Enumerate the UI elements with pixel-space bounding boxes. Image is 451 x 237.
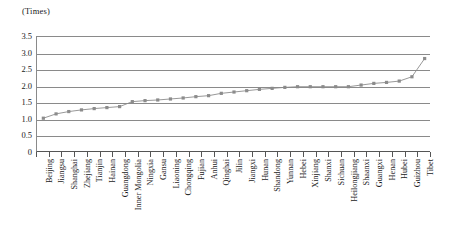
x-axis-label: Hebei — [300, 159, 308, 179]
gridline — [37, 136, 430, 137]
x-tick-mark — [265, 152, 266, 157]
x-axis-label: Liaoning — [173, 159, 181, 189]
x-tick-mark — [239, 152, 240, 157]
x-tick-mark — [341, 152, 342, 157]
gridline — [37, 120, 430, 121]
x-tick-mark — [214, 152, 215, 157]
x-axis-label: Guangxi — [376, 159, 384, 187]
y-tick-label: 3.0 — [21, 48, 32, 58]
x-axis-label: Henan — [389, 159, 397, 180]
data-point-marker — [54, 112, 57, 115]
x-tick-mark — [36, 152, 37, 157]
x-axis-label: Anhui — [211, 159, 219, 179]
x-tick-mark — [354, 152, 355, 157]
x-tick-mark — [252, 152, 253, 157]
x-axis-label: Zhejiang — [84, 159, 92, 188]
gridline — [37, 87, 430, 88]
x-tick-mark — [277, 152, 278, 157]
y-tick-label: 3.5 — [21, 31, 32, 41]
line-chart: (Times) 00.51.01.52.02.53.03.5 BeijingJi… — [0, 0, 451, 237]
x-axis-label: Inner Mongolia — [135, 159, 143, 210]
data-point-marker — [93, 107, 96, 110]
x-tick-mark — [430, 152, 431, 157]
data-point-marker — [118, 105, 121, 108]
x-axis-label: Chongqing — [185, 159, 193, 195]
data-point-marker — [182, 96, 185, 99]
x-axis-label: Sichuan — [338, 159, 346, 185]
x-axis-label: Hainan — [109, 159, 117, 183]
x-axis-label: Qinghai — [223, 159, 231, 185]
x-axis-label: Jilin — [236, 159, 244, 173]
series-marker-group — [42, 57, 427, 120]
x-axis-label: Beijing — [46, 159, 54, 183]
x-tick-mark — [379, 152, 380, 157]
x-axis-label: Shaanxi — [363, 159, 371, 185]
x-axis-label: Tibet — [427, 159, 435, 176]
x-tick-mark — [189, 152, 190, 157]
y-tick-label: 1.5 — [21, 97, 32, 107]
x-axis-label: Gansu — [160, 159, 168, 180]
x-axis-label: Shandong — [274, 159, 282, 192]
x-tick-mark — [49, 152, 50, 157]
y-axis-unit-label: (Times) — [22, 6, 50, 16]
x-tick-mark — [74, 152, 75, 157]
data-point-marker — [245, 89, 248, 92]
x-tick-mark — [112, 152, 113, 157]
x-tick-mark — [366, 152, 367, 157]
x-axis-label: Tianjin — [96, 159, 104, 182]
x-tick-mark — [100, 152, 101, 157]
gridline — [37, 54, 430, 55]
x-axis-label: Guizhou — [414, 159, 422, 187]
plot-area — [36, 36, 430, 152]
y-tick-label: 1.0 — [21, 114, 32, 124]
x-axis-label: Jiangsu — [58, 159, 66, 184]
y-tick-label: 0.5 — [21, 130, 32, 140]
x-axis-label: Shanghai — [71, 159, 79, 189]
x-tick-mark — [61, 152, 62, 157]
x-tick-mark — [150, 152, 151, 157]
x-axis-label: Yunnan — [287, 159, 295, 184]
data-point-marker — [258, 88, 261, 91]
x-axis-label: Hubei — [401, 159, 409, 179]
x-tick-mark — [303, 152, 304, 157]
gridline — [37, 70, 430, 71]
x-axis-label: Shanxi — [325, 159, 333, 182]
y-axis-tick-labels: 00.51.01.52.02.53.03.5 — [0, 30, 34, 158]
data-point-marker — [220, 92, 223, 95]
x-tick-mark — [125, 152, 126, 157]
data-point-marker — [232, 90, 235, 93]
x-axis-label: Heilongjiang — [351, 159, 359, 202]
y-tick-label: 0 — [28, 147, 32, 157]
data-point-marker — [398, 79, 401, 82]
x-tick-mark — [176, 152, 177, 157]
x-axis-label: Ningxia — [147, 159, 155, 185]
data-point-marker — [194, 95, 197, 98]
data-point-marker — [143, 99, 146, 102]
x-tick-mark — [163, 152, 164, 157]
x-tick-mark — [392, 152, 393, 157]
x-tick-mark — [227, 152, 228, 157]
data-point-marker — [372, 82, 375, 85]
x-axis-label: Fujian — [198, 159, 206, 180]
x-tick-mark — [328, 152, 329, 157]
data-point-marker — [80, 108, 83, 111]
x-tick-mark — [417, 152, 418, 157]
y-tick-label: 2.5 — [21, 64, 32, 74]
x-tick-mark — [201, 152, 202, 157]
data-point-marker — [169, 97, 172, 100]
x-axis-category-labels: BeijingJiangsuShanghaiZhejiangTianjinHai… — [36, 159, 430, 237]
x-tick-mark — [138, 152, 139, 157]
x-axis-tick-marks — [36, 152, 430, 158]
x-tick-mark — [290, 152, 291, 157]
data-point-marker — [156, 98, 159, 101]
series-polyline — [43, 59, 424, 119]
data-point-marker — [423, 57, 426, 60]
x-tick-mark — [316, 152, 317, 157]
x-axis-label: Guangdong — [122, 159, 130, 197]
x-tick-mark — [87, 152, 88, 157]
data-point-marker — [207, 94, 210, 97]
x-tick-mark — [405, 152, 406, 157]
data-point-marker — [67, 110, 70, 113]
x-axis-label: Xinjiang — [312, 159, 320, 188]
y-tick-label: 2.0 — [21, 81, 32, 91]
